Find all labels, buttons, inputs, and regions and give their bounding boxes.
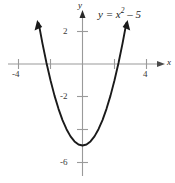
- parabola-right-arrow-icon: [123, 20, 131, 31]
- y-axis-arrow-icon: [80, 10, 86, 18]
- x-tick-label-4: 4: [143, 70, 148, 79]
- x-axis-arrow-icon: [157, 61, 165, 67]
- equation-annotation: y = x2 – 5: [98, 7, 141, 20]
- parabola-graph-figure: -4 4 2 -2 -6 x y y = x2 – 5: [0, 0, 175, 183]
- equation-main-text: y = x: [98, 8, 121, 20]
- equation-tail-text: – 5: [124, 8, 141, 20]
- x-tick-label--4: -4: [12, 70, 20, 79]
- plot-canvas: [0, 0, 175, 183]
- y-tick-label--2: -2: [60, 92, 68, 101]
- x-axis-label: x: [167, 58, 171, 67]
- y-tick-label--6: -6: [60, 158, 68, 167]
- y-tick-label-2: 2: [63, 27, 68, 36]
- y-axis-label: y: [78, 1, 82, 10]
- parabola-left-arrow-icon: [35, 20, 43, 31]
